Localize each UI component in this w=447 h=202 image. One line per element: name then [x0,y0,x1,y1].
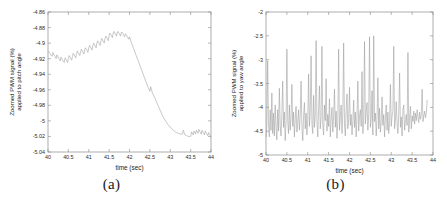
x-tick-label: 43.5 [185,154,196,160]
y-tick-label: -5 [40,118,45,124]
y-tick-label: -5.02 [33,133,45,139]
subcaption-a: (a) [0,176,223,193]
y-tick-label: -3 [258,57,263,63]
x-axis-label: time (sec) [115,164,143,172]
y-tick-label: -2 [258,9,263,15]
x-tick-label: 42.5 [145,154,156,160]
y-tick-label: -4 [258,104,263,110]
y-axis-label: Zoomed PWM signal (%)applied to yaw angl… [230,50,244,118]
x-tick-label: 43 [388,157,394,163]
y-tick-label: -4.98 [33,102,45,108]
y-tick-label: -5 [258,152,263,158]
y-axis-label-line2: applied to yaw angle [237,55,244,111]
x-tick-label: 43 [167,154,173,160]
y-tick-label: -2.5 [254,33,263,39]
x-tick-label: 41.5 [323,157,334,163]
y-tick-label: -4.92 [33,56,45,62]
data-series-line [266,36,427,141]
y-tick-label: -3.5 [254,81,263,87]
plot-frame [48,12,211,152]
y-tick-label: -4.5 [254,128,263,134]
y-axis-label-line2: applied to pitch angle [15,53,22,111]
x-tick-label: 42 [347,157,353,163]
x-tick-label: 40 [45,154,51,160]
figure-container: 4040.54141.54242.54343.544-5.04-5.02-5-4… [0,0,447,202]
x-tick-label: 43.5 [407,157,418,163]
y-tick-label: -4.9 [36,40,45,46]
x-axis-label: time (sec) [335,167,363,175]
y-tick-label: -4.88 [33,25,45,31]
x-tick-label: 40.5 [63,154,74,160]
x-tick-label: 44 [208,154,214,160]
y-axis-label-line1: Zoomed PWM signal (%) [8,48,15,116]
chart-panel-a: 4040.54141.54242.54343.544-5.04-5.02-5-4… [0,0,223,202]
subcaption-b: (b) [224,176,447,193]
x-tick-label: 40.5 [282,157,293,163]
x-tick-label: 40 [263,157,269,163]
x-tick-label: 41 [305,157,311,163]
y-tick-label: -4.86 [33,9,45,15]
chart-svg-b: 4040.54141.54242.54343.544-5-4.5-4-3.5-3… [224,0,447,175]
chart-svg-a: 4040.54141.54242.54343.544-5.04-5.02-5-4… [0,0,223,175]
y-axis-label-line1: Zoomed PWM signal (%) [230,50,237,118]
y-axis-label: Zoomed PWM signal (%)applied to pitch an… [8,48,22,116]
x-tick-label: 44 [430,157,436,163]
chart-panel-b: 4040.54141.54242.54343.544-5-4.5-4-3.5-3… [224,0,447,202]
data-series-line [48,31,211,137]
x-tick-label: 42 [127,154,133,160]
x-tick-label: 41 [86,154,92,160]
y-tick-label: -5.04 [33,149,45,155]
x-tick-label: 42.5 [365,157,376,163]
plot-frame [266,12,433,155]
x-tick-label: 41.5 [104,154,115,160]
y-tick-label: -4.96 [33,87,45,93]
y-tick-label: -4.94 [33,71,45,77]
